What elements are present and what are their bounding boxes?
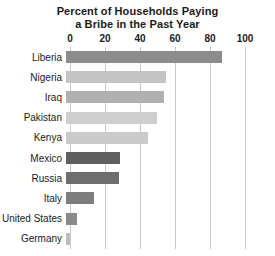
bar-track: [66, 87, 271, 107]
bar-nigeria: [66, 71, 166, 83]
bar-mexico: [66, 152, 120, 164]
bar-row: Kenya: [0, 128, 275, 148]
bar-row: Germany: [0, 229, 275, 249]
bar-row: Nigeria: [0, 67, 275, 87]
bar-track: [66, 47, 271, 67]
bar-chart-figure: Percent of Households Paying a Bribe in …: [0, 0, 275, 256]
category-label-mexico: Mexico: [0, 153, 66, 164]
chart-title-line-1: Percent of Households Paying: [0, 5, 275, 18]
bar-russia: [66, 172, 119, 184]
bar-liberia: [66, 51, 222, 63]
category-label-italy: Italy: [0, 193, 66, 204]
category-label-iraq: Iraq: [0, 92, 66, 103]
bar-track: [66, 168, 271, 188]
bar-pakistan: [66, 112, 157, 124]
category-label-united-states: United States: [0, 213, 66, 224]
bar-track: [66, 67, 271, 87]
category-label-nigeria: Nigeria: [0, 72, 66, 83]
category-label-germany: Germany: [0, 233, 66, 244]
bar-row: Pakistan: [0, 108, 275, 128]
bar-track: [66, 209, 271, 229]
bar-row: Italy: [0, 188, 275, 208]
bar-row: Iraq: [0, 87, 275, 107]
bar-kenya: [66, 132, 148, 144]
x-tick-label-100: 100: [237, 33, 254, 44]
bar-row: United States: [0, 209, 275, 229]
bar-track: [66, 229, 271, 249]
bar-track: [66, 128, 271, 148]
bar-germany: [66, 233, 70, 245]
bar-row: Mexico: [0, 148, 275, 168]
category-label-kenya: Kenya: [0, 132, 66, 143]
bar-track: [66, 108, 271, 128]
chart-title-line-2: a Bribe in the Past Year: [0, 18, 275, 31]
bar-united-states: [66, 213, 77, 225]
category-label-russia: Russia: [0, 173, 66, 184]
chart-title: Percent of Households Paying a Bribe in …: [0, 5, 275, 31]
bar-track: [66, 148, 271, 168]
x-axis-tick-labels: 020406080100: [0, 33, 275, 46]
x-tick-label-20: 20: [99, 33, 110, 44]
bar-rows: LiberiaNigeriaIraqPakistanKenyaMexicoRus…: [0, 47, 275, 249]
category-label-liberia: Liberia: [0, 52, 66, 63]
bar-row: Liberia: [0, 47, 275, 67]
bar-row: Russia: [0, 168, 275, 188]
bar-iraq: [66, 91, 164, 103]
x-tick-label-0: 0: [67, 33, 73, 44]
bar-italy: [66, 192, 94, 204]
x-tick-label-80: 80: [204, 33, 215, 44]
category-label-pakistan: Pakistan: [0, 112, 66, 123]
x-tick-label-60: 60: [169, 33, 180, 44]
bar-track: [66, 188, 271, 208]
x-tick-label-40: 40: [134, 33, 145, 44]
